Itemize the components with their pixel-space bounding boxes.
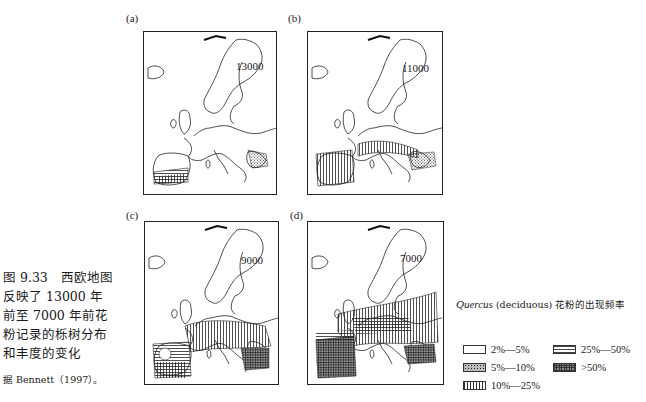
legend-item-label: 2%—5% [491,344,530,355]
legend-item: 25%—50% [553,344,630,355]
europe-map [308,222,443,384]
figure-caption: 图 9.33 西欧地图反映了 13000 年前至 7000 年前花粉记录的栎树分… [3,268,115,363]
vertical-lines-swatch-icon [463,381,486,390]
panel-c-label: (c) [126,209,138,221]
figure-source: 据 Bennett（1997）。 [3,372,103,386]
horizontal-lines-swatch-icon [553,345,576,354]
europe-map [308,32,442,194]
legend-title-taxon: Quercus [456,298,493,310]
year-label: 11000 [402,62,429,74]
legend-item-label: 25%—50% [581,344,630,355]
legend-item: 5%—10% [463,362,535,373]
map-panel-c: 9000 [144,221,279,385]
blank-swatch-icon [463,345,486,354]
europe-map [145,222,278,384]
map-panel-a: 13000 [143,31,277,195]
europe-map [144,32,276,194]
year-label: 9000 [241,254,263,266]
legend-title-text: (deciduous) 花粉的出现频率 [493,299,625,310]
panel-b-label: (b) [288,12,301,24]
legend-item-label: >50% [581,362,606,373]
cross-hatch-swatch-icon [553,363,576,372]
stipple-swatch-icon [463,363,486,372]
panel-d-label: (d) [290,209,303,221]
year-label: 7000 [400,252,422,264]
legend-item-label: 5%—10% [491,362,535,373]
legend-item-label: 10%—25% [491,380,540,391]
legend-item: 2%—5% [463,344,530,355]
legend-item: 10%—25% [463,380,540,391]
legend-item: >50% [553,362,606,373]
map-panel-b: 11000 [307,31,443,195]
map-panel-d: 7000 [307,221,444,385]
legend-title: Quercus (deciduous) 花粉的出现频率 [456,297,625,311]
panel-a-label: (a) [126,12,138,24]
year-label: 13000 [236,60,264,72]
